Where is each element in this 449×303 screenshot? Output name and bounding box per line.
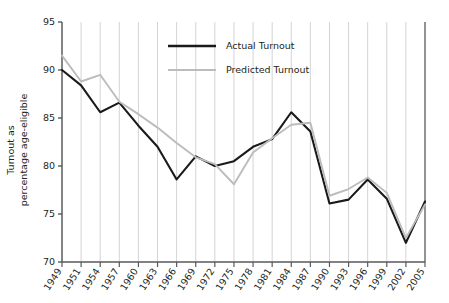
x-axis-tick-label: 1966 — [156, 266, 178, 292]
x-axis-tick-label: 1960 — [118, 266, 140, 292]
x-axis-tick-label: 1949 — [41, 266, 63, 292]
x-axis-tick-label: 1963 — [137, 266, 159, 292]
x-axis-tick-label: 1972 — [194, 266, 216, 292]
x-axis-tick-label: 1984 — [271, 266, 293, 292]
y-axis-title-line1: Turnout as — [5, 125, 16, 176]
x-axis-tick-label: 1957 — [99, 266, 121, 292]
y-axis-title-line2: percentage age-eligible — [18, 94, 29, 207]
x-axis-tick-label: 1993 — [328, 266, 350, 292]
x-axis-tick-label: 1981 — [251, 266, 273, 292]
x-axis-tick-label: 2002 — [385, 266, 407, 292]
x-axis-tick-label: 1996 — [347, 266, 369, 292]
chart-canvas: 7075808590951949195119541957196019631966… — [0, 0, 449, 303]
y-axis-title: Turnout aspercentage age-eligible — [5, 94, 29, 207]
x-axis-tick-label: 1951 — [60, 266, 82, 292]
chart-legend: Actual TurnoutPredicted Turnout — [168, 40, 310, 75]
x-axis-tick-label: 1975 — [213, 266, 235, 292]
y-axis-tick-label: 80 — [43, 160, 55, 171]
y-axis-tick-label: 70 — [43, 256, 55, 267]
x-axis-tick-label: 1987 — [290, 266, 312, 292]
y-axis: 707580859095 — [43, 16, 62, 267]
x-axis-tick-label: 1999 — [366, 266, 388, 292]
y-axis-tick-label: 90 — [43, 64, 55, 75]
turnout-line-chart: 7075808590951949195119541957196019631966… — [0, 0, 449, 303]
x-axis-tick-label: 2005 — [404, 266, 426, 292]
x-axis: 1949195119541957196019631966196919721975… — [41, 262, 426, 292]
y-axis-tick-label: 75 — [43, 208, 55, 219]
series-line-predicted-turnout — [62, 56, 425, 238]
y-axis-tick-label: 95 — [43, 16, 55, 27]
x-axis-tick-label: 1990 — [309, 266, 331, 292]
x-axis-tick-label: 1954 — [79, 266, 101, 292]
x-axis-tick-label: 1978 — [232, 266, 254, 292]
legend-label-1: Predicted Turnout — [226, 64, 310, 75]
x-axis-tick-label: 1969 — [175, 266, 197, 292]
gridlines-vertical — [62, 22, 425, 262]
series-line-actual-turnout — [62, 70, 425, 243]
y-axis-tick-label: 85 — [43, 112, 55, 123]
legend-label-0: Actual Turnout — [226, 40, 295, 51]
